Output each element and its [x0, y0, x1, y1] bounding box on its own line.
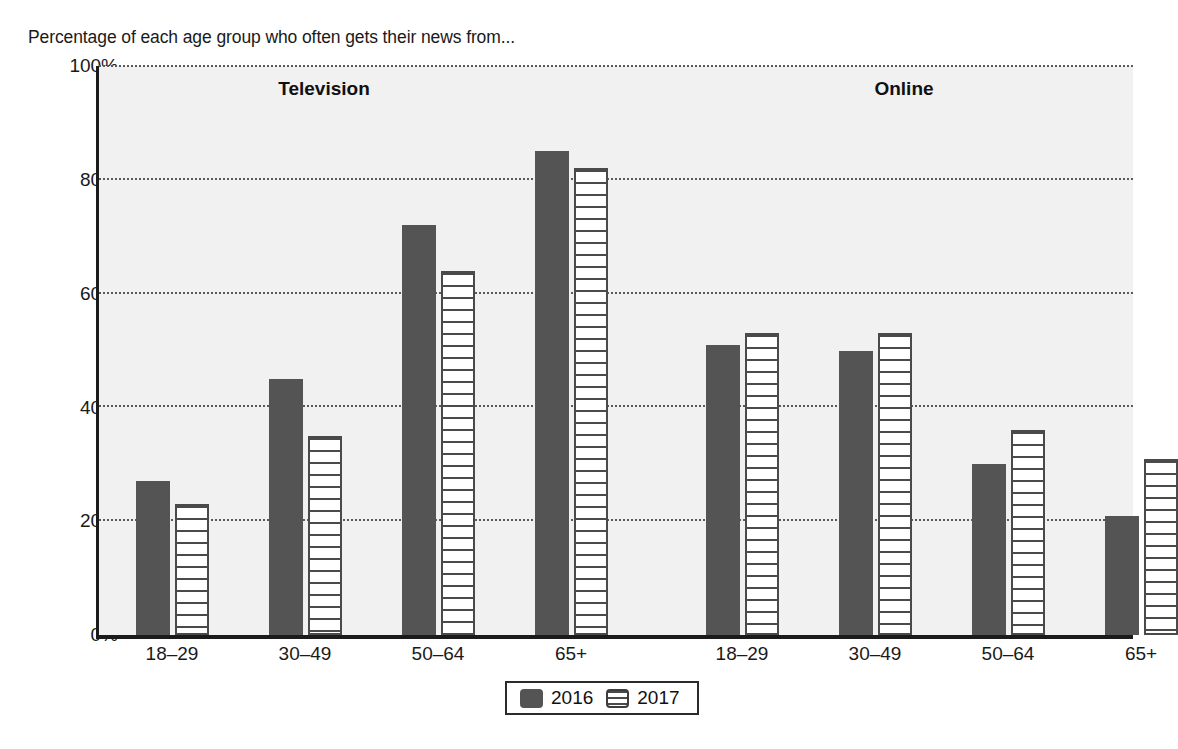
bar-online-30-49-2016	[839, 351, 873, 636]
bar-television-65plus-2016	[535, 151, 569, 635]
legend-item-2016: 2016	[520, 687, 597, 709]
legend-label-2017: 2017	[637, 687, 683, 709]
bar-online-18-29-2016	[706, 345, 740, 635]
gridline-80	[99, 178, 1133, 180]
legend-label-2016: 2016	[551, 687, 597, 709]
plot-area	[96, 66, 1133, 639]
bar-television-30-49-2017	[308, 436, 342, 635]
bar-television-18-29-2016	[136, 481, 170, 635]
bar-online-50-64-2017	[1011, 430, 1045, 635]
gridline-40	[99, 405, 1133, 407]
x-axis-label-online-65plus: 65+	[1125, 643, 1157, 665]
legend-item-2017: 2017	[606, 687, 683, 709]
bar-television-50-64-2016	[402, 225, 436, 635]
legend-swatch-2016-icon	[520, 689, 543, 708]
x-axis-label-online-50-64: 50–64	[982, 643, 1035, 665]
x-axis-label-online-18-29: 18–29	[716, 643, 769, 665]
bar-online-18-29-2017	[745, 333, 779, 635]
bar-television-50-64-2017	[441, 271, 475, 635]
x-axis-label-television-50-64: 50–64	[412, 643, 465, 665]
bar-television-30-49-2016	[269, 379, 303, 635]
bar-television-18-29-2017	[175, 504, 209, 635]
panel-label-television: Television	[278, 78, 370, 100]
x-axis-label-television-30-49: 30–49	[279, 643, 332, 665]
panel-label-online: Online	[874, 78, 933, 100]
bar-online-50-64-2016	[972, 464, 1006, 635]
chart-title: Percentage of each age group who often g…	[28, 27, 515, 47]
chart-legend: 2016 2017	[505, 681, 699, 715]
bar-television-65plus-2017	[574, 168, 608, 635]
bar-online-65plus-2017	[1144, 459, 1178, 635]
x-axis-label-television-65plus: 65+	[555, 643, 587, 665]
bar-online-65plus-2016	[1105, 516, 1139, 636]
x-axis-label-television-18-29: 18–29	[146, 643, 199, 665]
bar-online-30-49-2017	[878, 333, 912, 635]
gridline-60	[99, 292, 1133, 294]
gridline-100	[99, 65, 1133, 67]
legend-swatch-2017-icon	[606, 689, 629, 708]
x-axis-label-online-30-49: 30–49	[849, 643, 902, 665]
